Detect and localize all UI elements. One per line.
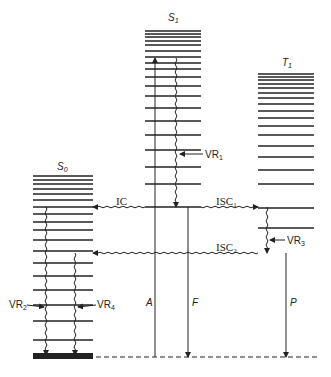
s0-state-label: S0 xyxy=(57,162,68,173)
fluorescence-label: F xyxy=(192,298,198,308)
vr3-label: VR3 xyxy=(287,236,305,247)
isc2-label: ISC2 xyxy=(216,242,237,255)
ic-label: IC xyxy=(116,196,127,207)
absorption-label: A xyxy=(146,298,153,308)
vr3-arrow xyxy=(266,207,268,253)
t1-state-label: T1 xyxy=(282,58,292,69)
s0-levels xyxy=(33,176,93,359)
vr2-label: VR2 xyxy=(9,300,27,311)
s1-levels xyxy=(145,31,201,207)
ground-state-bar xyxy=(33,353,93,359)
t1-levels xyxy=(258,74,314,228)
vr1-label: VR1 xyxy=(205,150,223,161)
vr2-arrow xyxy=(45,207,47,355)
isc1-label: ISC1 xyxy=(216,196,237,209)
s1-state-label: S1 xyxy=(168,13,179,24)
phosphorescence-label: P xyxy=(290,298,297,308)
vr4-label: VR4 xyxy=(97,300,115,311)
